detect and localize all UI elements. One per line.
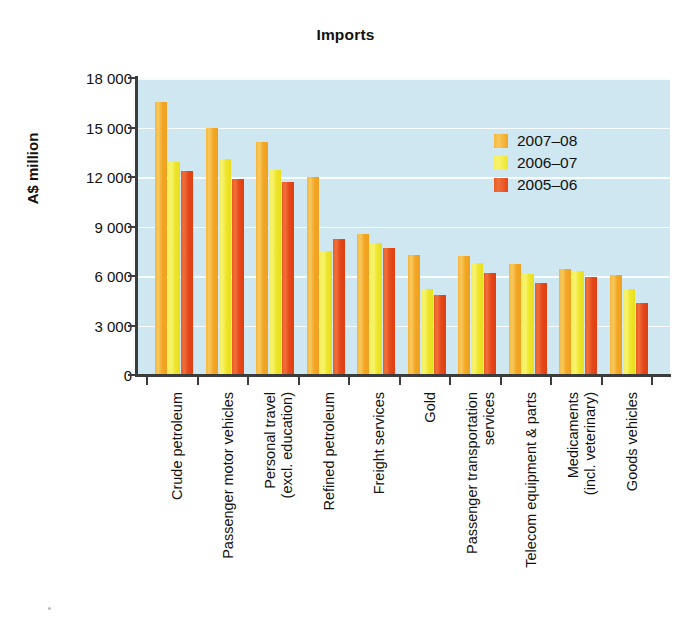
x-category-label-line: Telecom equipment & parts xyxy=(523,392,540,592)
x-tick-mark xyxy=(601,375,603,385)
x-tick-mark xyxy=(197,375,199,385)
x-category-label: Goods vehicles xyxy=(624,192,641,392)
y-tick-mark xyxy=(128,226,137,228)
x-category-label-line: (incl. veterinary) xyxy=(581,392,598,592)
scan-artifact-speck xyxy=(48,607,51,610)
x-tick-mark xyxy=(247,375,249,385)
x-category-label-line: Gold xyxy=(422,392,439,592)
y-tick-mark xyxy=(128,127,137,129)
legend-label: 2007–08 xyxy=(517,132,577,150)
x-category-label-line: Medicaments xyxy=(565,392,582,592)
x-category-label-line: Goods vehicles xyxy=(624,392,641,592)
x-category-label-line: Freight services xyxy=(371,392,388,592)
imports-bar-chart: Imports A$ million 03 0006 0009 00012 00… xyxy=(0,0,691,637)
x-category-label: Gold xyxy=(422,192,439,392)
legend-swatch xyxy=(494,156,508,170)
x-category-label: Passenger motor vehicles xyxy=(220,192,237,392)
legend-item[interactable]: 2007–08 xyxy=(494,130,644,152)
x-category-label-line: Personal travel xyxy=(262,392,279,592)
x-category-label: Telecom equipment & parts xyxy=(523,192,540,392)
x-category-label: Freight services xyxy=(371,192,388,392)
legend-label: 2005–06 xyxy=(517,176,577,194)
x-category-label-line: (excl. education) xyxy=(278,392,295,592)
x-category-label: Personal travel(excl. education) xyxy=(262,192,295,392)
x-tick-mark xyxy=(146,375,148,385)
y-tick-mark xyxy=(128,275,137,277)
x-category-label-line: Passenger motor vehicles xyxy=(220,392,237,592)
x-category-label: Medicaments(incl. veterinary) xyxy=(565,192,598,392)
x-category-label-line: Refined petroleum xyxy=(321,392,338,592)
x-category-label-line: Crude petroleum xyxy=(169,392,186,592)
legend-item[interactable]: 2006–07 xyxy=(494,152,644,174)
x-tick-mark xyxy=(651,375,653,385)
x-tick-mark xyxy=(348,375,350,385)
x-tick-mark xyxy=(449,375,451,385)
x-category-label-line: Passenger transportation xyxy=(464,392,481,592)
y-tick-mark xyxy=(128,176,137,178)
y-tick-mark xyxy=(128,77,137,79)
x-category-label: Crude petroleum xyxy=(169,192,186,392)
x-tick-mark xyxy=(298,375,300,385)
legend-swatch xyxy=(494,134,508,148)
legend-swatch xyxy=(494,178,508,192)
x-tick-mark xyxy=(550,375,552,385)
x-category-label: Passenger transportationservices xyxy=(464,192,497,392)
y-tick-mark xyxy=(128,325,137,327)
x-category-label: Refined petroleum xyxy=(321,192,338,392)
y-tick-mark xyxy=(128,374,137,376)
x-category-label-line: services xyxy=(480,392,497,592)
x-tick-mark xyxy=(399,375,401,385)
x-tick-mark xyxy=(500,375,502,385)
legend-item[interactable]: 2005–06 xyxy=(494,174,644,196)
legend: 2007–082006–072005–06 xyxy=(494,130,644,196)
legend-label: 2006–07 xyxy=(517,154,577,172)
